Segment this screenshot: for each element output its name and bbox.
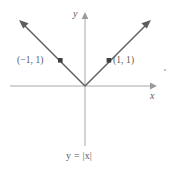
x-axis-arrowhead-icon xyxy=(150,83,157,90)
point-marker-left xyxy=(58,58,63,63)
x-axis-label: x xyxy=(150,91,154,101)
stray-dot-artifact xyxy=(164,69,166,71)
equation-label: y = |x| xyxy=(66,151,92,161)
absolute-value-graph-figure: y x (−1, 1) (1, 1) y = |x| xyxy=(0,0,173,172)
point-label-minus-one-one: (−1, 1) xyxy=(17,56,44,66)
graph-canvas xyxy=(0,0,173,172)
point-label-one-one: (1, 1) xyxy=(113,56,134,66)
point-marker-right xyxy=(107,58,112,63)
y-axis-arrowhead-icon xyxy=(82,12,89,19)
y-axis-label: y xyxy=(73,9,77,19)
